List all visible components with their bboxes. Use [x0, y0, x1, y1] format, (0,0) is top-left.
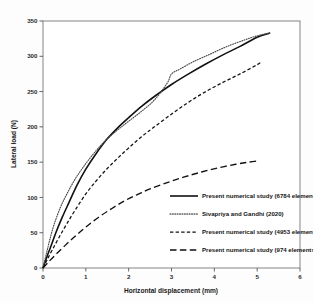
- y-tick-label: 250: [27, 88, 38, 95]
- legend-label-4: Present numerical study (974 elements): [202, 246, 313, 253]
- x-tick-label: 6: [298, 273, 302, 280]
- x-axis-ticks: 0123456: [41, 268, 302, 280]
- y-axis-ticks: 050100150200250300350: [27, 17, 43, 271]
- x-tick-label: 3: [170, 273, 174, 280]
- y-tick-label: 200: [27, 123, 38, 130]
- x-tick-label: 4: [213, 273, 217, 280]
- x-tick-label: 0: [41, 273, 45, 280]
- legend-label-1: Present numerical study (6784 elements): [202, 192, 313, 199]
- lateral-load-vs-displacement-chart: 050100150200250300350 0123456 Lateral lo…: [0, 0, 313, 303]
- y-tick-label: 100: [27, 194, 38, 201]
- y-axis-title: Lateral load (N): [10, 120, 18, 168]
- figure-container: 050100150200250300350 0123456 Lateral lo…: [0, 0, 313, 303]
- y-tick-label: 300: [27, 52, 38, 59]
- x-tick-label: 2: [127, 273, 131, 280]
- y-tick-label: 150: [27, 158, 38, 165]
- x-tick-label: 5: [255, 273, 259, 280]
- x-tick-label: 1: [84, 273, 88, 280]
- legend-label-3: Present numerical study (4953 elements): [202, 228, 313, 235]
- y-tick-label: 50: [31, 229, 38, 236]
- y-tick-label: 350: [27, 17, 38, 24]
- legend-label-2: Sivapriya and Gandhi (2020): [202, 210, 284, 217]
- x-axis-title: Horizontal displacement (mm): [124, 287, 218, 295]
- y-tick-label: 0: [34, 264, 38, 271]
